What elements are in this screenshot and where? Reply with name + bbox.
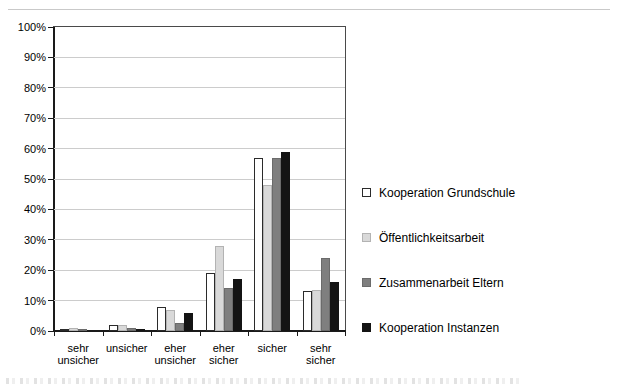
- legend-swatch: [362, 278, 371, 287]
- bar-1-eher-unsicher: [157, 307, 166, 331]
- y-axis-tick: [48, 331, 53, 332]
- y-tick-label: 90%: [0, 50, 46, 64]
- bar-4-unsicher: [136, 329, 145, 331]
- grid-line: [54, 148, 345, 149]
- bar-3-sehr-sicher: [321, 258, 330, 331]
- x-axis-tick: [151, 332, 152, 336]
- legend-item: Kooperation Instanzen: [362, 321, 515, 334]
- legend: Kooperation GrundschuleÖffentlichkeitsar…: [362, 186, 515, 334]
- legend-item: Öffentlichkeitsarbeit: [362, 231, 515, 244]
- x-axis-tick: [297, 332, 298, 336]
- bar-2-unsicher: [118, 325, 127, 331]
- y-axis-tick: [48, 209, 53, 210]
- y-tick-label: 10%: [0, 294, 46, 308]
- legend-swatch: [362, 323, 371, 332]
- y-tick-label: 20%: [0, 263, 46, 277]
- legend-label: Kooperation Instanzen: [379, 321, 499, 335]
- y-tick-label: 0%: [0, 324, 46, 338]
- x-category-label-line: sicher: [291, 355, 352, 367]
- y-tick-label: 70%: [0, 111, 46, 125]
- bar-2-eher-sicher: [215, 246, 224, 331]
- bar-3-unsicher: [127, 328, 136, 331]
- x-axis-tick: [103, 332, 104, 336]
- legend-item: Zusammenarbeit Eltern: [362, 276, 515, 289]
- y-tick-label: 40%: [0, 202, 46, 216]
- y-tick-label: 80%: [0, 81, 46, 95]
- bar-2-eher-unsicher: [166, 310, 175, 331]
- bar-3-eher-unsicher: [175, 323, 184, 331]
- bar-1-sicher: [254, 158, 263, 331]
- legend-label: Öffentlichkeitsarbeit: [379, 231, 484, 245]
- bar-3-sehr-unsicher: [78, 329, 87, 331]
- y-tick-label: 100%: [0, 20, 46, 34]
- grid-line: [54, 270, 345, 271]
- legend-swatch: [362, 233, 371, 242]
- bar-2-sehr-unsicher: [69, 328, 78, 331]
- y-axis-tick: [48, 239, 53, 240]
- y-axis-tick: [48, 87, 53, 88]
- plot-area: [54, 27, 345, 331]
- bar-2-sehr-sicher: [312, 290, 321, 331]
- x-axis-tick: [200, 332, 201, 336]
- bar-4-sehr-sicher: [330, 282, 339, 331]
- grid-line: [54, 300, 345, 301]
- x-axis-tick: [248, 332, 249, 336]
- bar-2-sicher: [263, 185, 272, 331]
- bar-3-eher-sicher: [224, 288, 233, 331]
- grid-line: [54, 118, 345, 119]
- y-axis-tick: [48, 300, 53, 301]
- y-axis-tick: [48, 270, 53, 271]
- legend-swatch: [362, 188, 371, 197]
- bar-chart: 0%10%20%30%40%50%60%70%80%90%100% sehrun…: [0, 0, 618, 385]
- y-axis-tick: [48, 57, 53, 58]
- bar-4-eher-unsicher: [184, 313, 193, 331]
- grid-line: [54, 87, 345, 88]
- y-axis-tick: [48, 179, 53, 180]
- y-tick-label: 30%: [0, 233, 46, 247]
- x-axis-tick: [345, 332, 346, 336]
- grid-line: [54, 57, 345, 58]
- x-category-label-line: sicher: [194, 355, 255, 367]
- y-axis-tick: [48, 118, 53, 119]
- y-axis-tick: [48, 148, 53, 149]
- top-divider-rule: [8, 9, 610, 10]
- bar-1-eher-sicher: [206, 273, 215, 331]
- legend-label: Zusammenarbeit Eltern: [379, 276, 504, 290]
- legend-label: Kooperation Grundschule: [379, 186, 515, 200]
- grid-line: [54, 179, 345, 180]
- bar-1-sehr-unsicher: [60, 329, 69, 331]
- bar-4-eher-sicher: [233, 279, 242, 331]
- bar-4-sicher: [281, 152, 290, 331]
- bar-1-unsicher: [109, 325, 118, 331]
- y-axis-tick: [48, 27, 53, 28]
- y-tick-label: 60%: [0, 142, 46, 156]
- x-category-label-line: unsicher: [48, 355, 109, 367]
- x-category-label-line: sehr: [291, 343, 352, 355]
- cropped-caption-fragment: [6, 378, 522, 384]
- bar-1-sehr-sicher: [303, 291, 312, 331]
- grid-line: [54, 239, 345, 240]
- y-tick-label: 50%: [0, 172, 46, 186]
- legend-item: Kooperation Grundschule: [362, 186, 515, 199]
- bar-3-sicher: [272, 158, 281, 331]
- x-axis-tick: [54, 332, 55, 336]
- grid-line: [54, 209, 345, 210]
- x-category-label: sehrsicher: [291, 343, 352, 366]
